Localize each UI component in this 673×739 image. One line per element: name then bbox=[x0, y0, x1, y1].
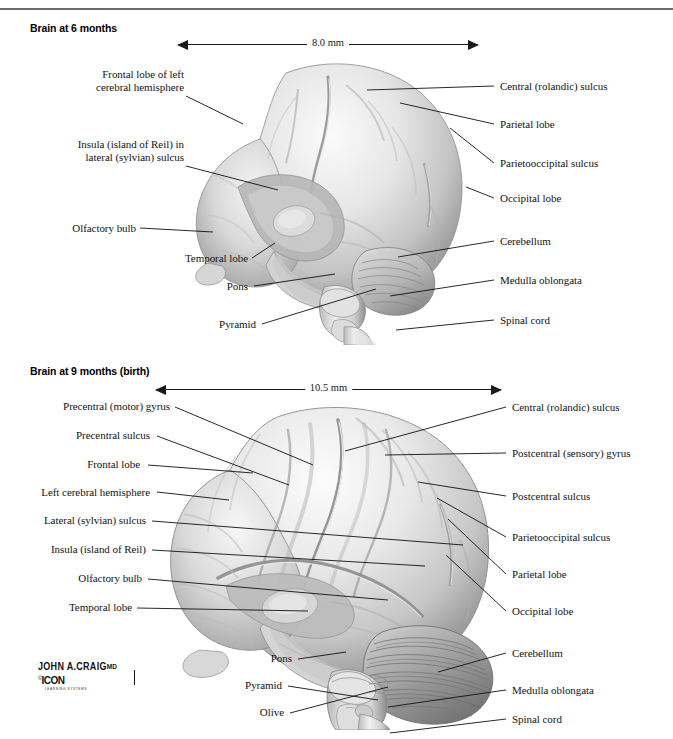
publisher-logo: ©ICON bbox=[38, 675, 117, 686]
label-spinal-cord: Spinal cord bbox=[500, 314, 650, 327]
label-frontal-lobe: Frontal lobe bbox=[40, 458, 140, 471]
leader-insula bbox=[186, 166, 278, 190]
leader-central-sulcus bbox=[367, 86, 494, 90]
leader-spinal-cord bbox=[396, 320, 494, 330]
label-postcentral-sulcus: Postcentral sulcus bbox=[512, 490, 662, 503]
label-precentral-sulcus: Precentral sulcus bbox=[30, 429, 150, 442]
leader-postcentral-gyrus bbox=[385, 453, 506, 455]
leader-temporal-lobe bbox=[137, 608, 308, 611]
leader-frontal-lobe bbox=[186, 96, 243, 124]
leader-postcentral-sulcus bbox=[418, 482, 506, 496]
illustration-page: Brain at 6 months 8.0 mm bbox=[0, 0, 673, 739]
label-parietooccipital-sulcus: Parietooccipital sulcus bbox=[512, 531, 672, 544]
leader-olfactory-bulb bbox=[148, 579, 388, 600]
figure-brain-6-months: Brain at 6 months 8.0 mm bbox=[0, 0, 673, 355]
label-pyramid: Pyramid bbox=[212, 679, 282, 692]
label-postcentral-sensory-gyrus: Postcentral (sensory) gyrus bbox=[512, 447, 673, 460]
leader-medulla-oblongata bbox=[390, 280, 494, 296]
leader-pons bbox=[254, 274, 335, 286]
label-pons: Pons bbox=[242, 652, 292, 665]
figure-1-leader-lines bbox=[0, 0, 673, 355]
label-occipital-lobe: Occipital lobe bbox=[500, 192, 650, 205]
leader-precentral-sulcus bbox=[157, 436, 289, 485]
label-insula-island-of-reil-in-lateral-sylvian-sulcus: Insula (island of Reil) in lateral (sylv… bbox=[22, 138, 184, 163]
leader-parietal-lobe bbox=[400, 103, 494, 124]
label-cerebellum: Cerebellum bbox=[512, 647, 662, 660]
publisher-tagline: LEARNING SYSTEMS bbox=[45, 687, 117, 691]
leader-parietooccipital-sulcus bbox=[450, 128, 494, 163]
publisher-name: ICON bbox=[42, 675, 65, 686]
label-left-cerebral-hemisphere: Left cerebral hemisphere bbox=[14, 486, 150, 499]
leader-occipital-lobe bbox=[466, 187, 494, 198]
label-medulla-oblongata: Medulla oblongata bbox=[500, 274, 660, 287]
leader-pyramid bbox=[262, 289, 376, 324]
figure-brain-9-months: Brain at 9 months (birth) 10.5 mm bbox=[0, 355, 673, 739]
leader-occipital-lobe bbox=[446, 555, 506, 611]
leader-olive bbox=[290, 687, 388, 713]
label-parietal-lobe: Parietal lobe bbox=[512, 568, 662, 581]
leader-spinal-cord bbox=[390, 719, 506, 733]
label-pyramid: Pyramid bbox=[188, 318, 256, 331]
label-pons: Pons bbox=[198, 280, 248, 293]
leader-olfactory-bulb bbox=[140, 228, 213, 232]
leader-temporal-lobe bbox=[252, 243, 275, 258]
leader-lateral-sylvian-sulcus bbox=[152, 521, 463, 545]
leader-left-cerebral-hemisphere bbox=[157, 492, 229, 500]
label-precentral-motor-gyrus: Precentral (motor) gyrus bbox=[10, 400, 170, 413]
leader-medulla-oblongata bbox=[388, 690, 506, 707]
label-temporal-lobe: Temporal lobe bbox=[168, 252, 248, 265]
label-occipital-lobe: Occipital lobe bbox=[512, 605, 662, 618]
signature-credential: MD bbox=[107, 662, 117, 670]
label-olfactory-bulb: Olfactory bulb bbox=[54, 222, 136, 235]
signature-artist-name: JOHN A.CRAIGMD bbox=[38, 661, 117, 673]
leader-cerebellum bbox=[398, 241, 494, 257]
label-parietal-lobe: Parietal lobe bbox=[500, 118, 650, 131]
artist-signature: JOHN A.CRAIGMD ©ICON LEARNING SYSTEMS bbox=[38, 662, 117, 691]
label-olfactory-bulb: Olfactory bulb bbox=[56, 572, 142, 585]
leader-cerebellum bbox=[438, 653, 506, 672]
leader-precentral-gyrus bbox=[175, 407, 313, 465]
label-parietooccipital-sulcus: Parietooccipital sulcus bbox=[500, 157, 660, 170]
label-central-rolandic-sulcus: Central (rolandic) sulcus bbox=[500, 80, 668, 93]
signature-tick-mark bbox=[134, 670, 135, 685]
leader-parietooccipital-sulcus bbox=[437, 498, 506, 537]
leader-insula bbox=[152, 550, 425, 566]
label-olive: Olive bbox=[236, 706, 284, 719]
label-temporal-lobe: Temporal lobe bbox=[48, 601, 132, 614]
leader-parietal-lobe bbox=[448, 519, 506, 574]
leader-pons bbox=[298, 652, 346, 659]
label-cerebellum: Cerebellum bbox=[500, 235, 650, 248]
label-medulla-oblongata: Medulla oblongata bbox=[512, 684, 672, 697]
leader-central-sulcus bbox=[345, 407, 506, 451]
label-central-rolandic-sulcus: Central (rolandic) sulcus bbox=[512, 401, 673, 414]
label-insula-island-of-reil: Insula (island of Reil) bbox=[24, 543, 146, 556]
label-lateral-sylvian-sulcus: Lateral (sylvian) sulcus bbox=[24, 514, 146, 527]
label-spinal-cord: Spinal cord bbox=[512, 713, 662, 726]
label-frontal-lobe-of-left-cerebral-hemisphere: Frontal lobe of left cerebral hemisphere bbox=[36, 68, 184, 93]
